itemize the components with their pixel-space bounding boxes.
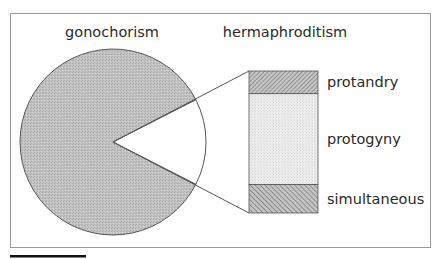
heading-hermaphroditism: hermaphroditism (223, 24, 347, 40)
breakdown-labels: protandryprotogynysimultaneous (327, 74, 424, 206)
heading-gonochorism: gonochorism (65, 24, 159, 40)
breakdown-bar (249, 71, 318, 213)
bar-segment-simultaneous (249, 185, 318, 213)
label-simultaneous: simultaneous (327, 191, 424, 207)
label-protandry: protandry (327, 74, 399, 90)
pie-of-pie-diagram: gonochorism hermaphroditism protandrypro… (0, 0, 439, 259)
label-protogyny: protogyny (327, 131, 401, 147)
bar-segment-protandry (249, 71, 318, 94)
scale-bar (10, 255, 86, 258)
bar-segment-protogyny (249, 94, 318, 185)
